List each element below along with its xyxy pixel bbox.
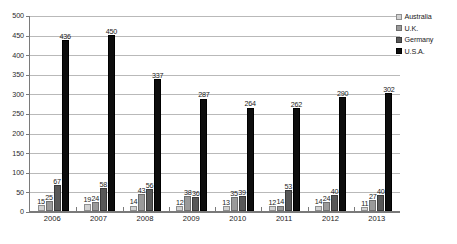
legend-swatch-icon (396, 25, 402, 31)
bar: 12 (269, 206, 276, 211)
bar: 11 (361, 207, 368, 211)
bar: 58 (100, 188, 107, 211)
y-axis-tick-label: 400 (0, 52, 24, 59)
x-axis-label: 2012 (307, 214, 353, 223)
bar-value-label: 436 (59, 33, 70, 41)
bar-value-label: 53 (285, 183, 293, 191)
bar: 450 (108, 35, 115, 211)
bar: 14 (277, 206, 284, 211)
x-axis-label: 2007 (75, 214, 121, 223)
bar-group: 192458450 (76, 16, 122, 211)
bar: 25 (46, 201, 53, 211)
bar-value-label: 58 (100, 181, 108, 189)
y-axis-tick-label: 200 (0, 130, 24, 137)
bar: 302 (385, 93, 392, 211)
legend-item[interactable]: Germany (396, 34, 456, 46)
y-axis-tick-label: 500 (0, 12, 24, 19)
bar: 24 (92, 202, 99, 211)
bar: 436 (62, 40, 69, 211)
bar-group: 152567436 (30, 16, 76, 211)
bar-group: 112740302 (354, 16, 400, 211)
bar: 27 (369, 200, 376, 211)
bar-value-label: 337 (152, 72, 163, 80)
bar-group: 144356337 (123, 16, 169, 211)
legend-item[interactable]: U.S.A. (396, 46, 456, 58)
bar-value-label: 27 (369, 193, 377, 201)
y-axis-tick-label: 450 (0, 32, 24, 39)
bar: 53 (285, 190, 292, 211)
bar-value-label: 40 (331, 188, 339, 196)
bar-value-label: 287 (198, 91, 209, 99)
bar-value-label: 39 (238, 189, 246, 197)
x-axis-label: 2013 (354, 214, 400, 223)
bar: 43 (138, 194, 145, 211)
bar: 40 (377, 195, 384, 211)
bar-value-label: 12 (176, 199, 184, 207)
bar-value-label: 38 (184, 189, 192, 197)
bar-value-label: 290 (337, 90, 348, 98)
y-axis-tick-label: 150 (0, 150, 24, 157)
bar: 19 (84, 204, 91, 211)
bar-value-label: 11 (361, 200, 368, 208)
bar-value-label: 67 (53, 178, 61, 186)
bar: 13 (223, 206, 230, 211)
bar-value-label: 14 (315, 198, 323, 206)
bar-group: 121453262 (261, 16, 307, 211)
legend-item[interactable]: U.K. (396, 23, 456, 35)
y-axis-tick-label: 250 (0, 110, 24, 117)
x-axis-labels: 20062007200820092010201120122013 (29, 214, 400, 223)
bar: 67 (54, 185, 61, 211)
x-axis-label: 2008 (122, 214, 168, 223)
bar: 287 (200, 99, 207, 212)
bar: 35 (231, 197, 238, 211)
y-axis-tick-label: 0 (0, 208, 24, 215)
bar-value-label: 302 (383, 86, 394, 94)
bar: 15 (38, 205, 45, 211)
x-axis-label: 2006 (29, 214, 75, 223)
bar: 24 (323, 202, 330, 211)
legend-item-label: Germany (405, 36, 434, 43)
bar: 14 (315, 206, 322, 211)
bar-group: 142440290 (308, 16, 354, 211)
bar-value-label: 450 (106, 28, 117, 36)
bar: 56 (146, 189, 153, 211)
bar-value-label: 25 (45, 194, 53, 202)
y-axis-tick (26, 212, 30, 213)
plot-area: 1525674361924584501443563371238362871335… (29, 16, 400, 212)
bar-value-label: 35 (230, 190, 238, 198)
bar: 14 (130, 206, 137, 211)
bar-value-label: 24 (92, 195, 100, 203)
bar: 39 (239, 196, 246, 211)
bar-value-label: 56 (146, 182, 154, 190)
y-axis-tick-label: 350 (0, 71, 24, 78)
y-axis-tick-label: 100 (0, 169, 24, 176)
bar-value-label: 36 (192, 190, 200, 198)
bar-groups: 1525674361924584501443563371238362871335… (30, 16, 400, 211)
bar: 337 (154, 79, 161, 211)
bar-value-label: 19 (84, 196, 92, 204)
bar-value-label: 40 (377, 188, 385, 196)
chart-legend: AustraliaU.K.GermanyU.S.A. (396, 11, 456, 57)
bar-group: 123836287 (169, 16, 215, 211)
bar: 12 (176, 206, 183, 211)
bar: 262 (293, 108, 300, 211)
bar-value-label: 43 (138, 187, 146, 195)
x-axis-label: 2010 (215, 214, 261, 223)
bar-chart: 050100150200250300350400450500 152567436… (0, 0, 457, 244)
bar-value-label: 14 (130, 198, 138, 206)
legend-swatch-icon (396, 37, 402, 43)
bar-value-label: 14 (277, 198, 285, 206)
y-axis-tick-label: 300 (0, 91, 24, 98)
bar-value-label: 12 (269, 199, 277, 207)
bar: 290 (339, 97, 346, 211)
bar: 264 (247, 108, 254, 211)
bar: 38 (184, 196, 191, 211)
legend-item-label: U.K. (405, 25, 419, 32)
bar-value-label: 24 (323, 195, 331, 203)
bar-value-label: 13 (222, 199, 230, 207)
bar-group: 133539264 (215, 16, 261, 211)
bar: 40 (331, 195, 338, 211)
bar-value-label: 262 (291, 101, 302, 109)
legend-item[interactable]: Australia (396, 11, 456, 23)
y-axis-tick-label: 50 (0, 189, 24, 196)
